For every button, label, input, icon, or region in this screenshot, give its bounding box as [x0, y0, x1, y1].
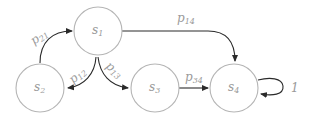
edge-label-self-loop: 1	[291, 81, 299, 95]
edge-label-p14: p14	[177, 11, 195, 26]
markov-diagram: s1 s2 s3 s4 p21 p12 p13 p14 p34 1	[0, 0, 312, 121]
edge-s1-s4	[122, 31, 235, 61]
edge-label-p34: p34	[185, 70, 203, 85]
edge-label-p12: p12	[66, 64, 89, 87]
edge-label-p21: p21	[28, 26, 51, 49]
edge-label-p13: p13	[102, 59, 125, 82]
edge-s4-self-loop	[258, 78, 283, 94]
